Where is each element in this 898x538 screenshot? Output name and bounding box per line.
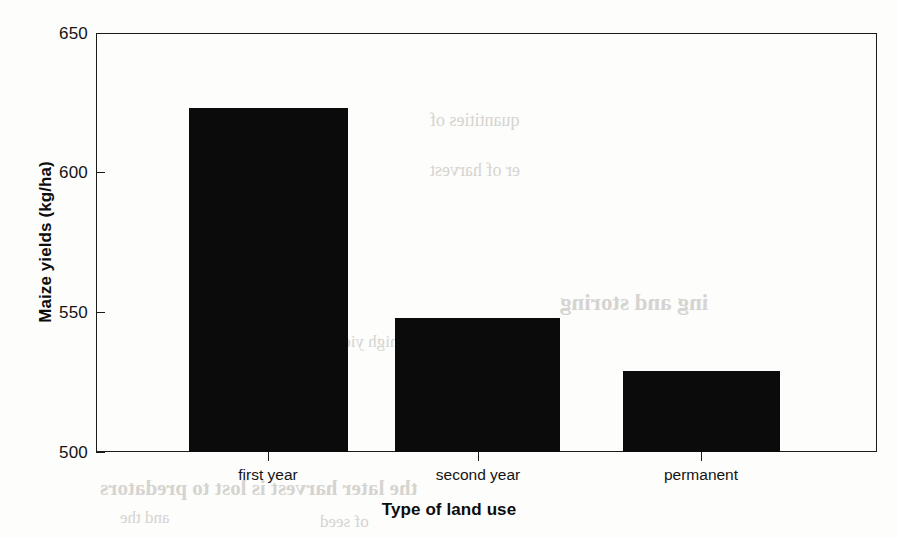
x-axis-title: Type of land use [0, 500, 898, 520]
x-tick-label-first-year: first year [238, 466, 297, 484]
y-tick-label-500: 500 [36, 444, 88, 461]
bar-permanent[interactable] [623, 371, 780, 452]
x-tick-mark-second-year [478, 452, 479, 461]
x-tick-mark-first-year [268, 452, 269, 461]
x-tick-label-permanent: permanent [664, 466, 738, 484]
y-axis-title: Maize yields (kg/ha) [36, 112, 56, 372]
bar-chart: 650 600 550 500 Maize yields (kg/ha) fir… [0, 0, 898, 538]
y-tick-mark-550 [96, 312, 105, 313]
x-tick-mark-permanent [701, 452, 702, 461]
bar-second-year[interactable] [395, 318, 560, 452]
bar-first-year[interactable] [189, 108, 348, 452]
y-tick-label-650: 650 [36, 25, 88, 42]
bars-layer [96, 33, 877, 452]
x-tick-label-second-year: second year [436, 466, 520, 484]
y-tick-mark-650 [96, 33, 105, 34]
y-tick-mark-500 [96, 452, 105, 453]
y-tick-mark-600 [96, 172, 105, 173]
